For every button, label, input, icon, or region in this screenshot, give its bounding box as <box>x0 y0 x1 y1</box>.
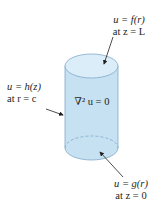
bottom-boundary-label: u = g(r) at z = 0 <box>108 178 154 202</box>
top-boundary-condition: u = f(r) <box>105 14 153 26</box>
bottom-boundary-location: at z = 0 <box>108 190 154 202</box>
cylinder-top <box>65 54 118 78</box>
side-boundary-condition: u = h(z) <box>7 81 41 93</box>
bottom-boundary-condition: u = g(r) <box>108 178 154 190</box>
top-boundary-location: at z = L <box>105 26 153 38</box>
side-arrow <box>46 109 63 115</box>
laplace-equation: ∇² u = 0 <box>70 96 114 108</box>
side-boundary-label: u = h(z) at r = c <box>7 81 41 105</box>
cylinder-body <box>65 66 118 160</box>
side-boundary-location: at r = c <box>7 93 41 105</box>
top-boundary-label: u = f(r) at z = L <box>105 14 153 38</box>
